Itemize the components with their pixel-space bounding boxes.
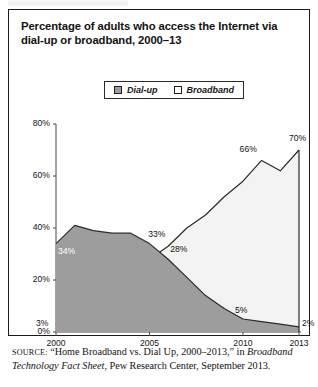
y-axis-tick-label: 20% bbox=[14, 274, 50, 284]
data-label-dial-up-2: 2% bbox=[302, 318, 314, 328]
y-axis-tick-label: 60% bbox=[14, 170, 50, 180]
data-label-broadband-66: 66% bbox=[240, 144, 257, 154]
data-label-dial-up-34: 34% bbox=[58, 246, 75, 256]
legend-item-dial-up: Dial-up bbox=[114, 85, 158, 95]
data-label-dial-up-5: 5% bbox=[235, 305, 247, 315]
legend-swatch-broadband-icon bbox=[174, 86, 182, 94]
legend-swatch-dial-up-icon bbox=[114, 86, 122, 94]
source-prefix: SOURCE: bbox=[12, 348, 48, 357]
legend-label-broadband: Broadband bbox=[187, 85, 235, 95]
chart-legend: Dial-up Broadband bbox=[104, 81, 244, 99]
y-axis-tick-label: 80% bbox=[14, 118, 50, 128]
data-label-broadband-3: 3% bbox=[36, 318, 48, 328]
source-text-part2: , Pew Research Center, September 2013. bbox=[104, 360, 270, 371]
legend-item-broadband: Broadband bbox=[174, 85, 235, 95]
chart-plot-area: 0%20%40%60%80%2000200520102013 3%33%66%7… bbox=[9, 114, 311, 346]
figure-frame: Percentage of adults who access the Inte… bbox=[8, 9, 310, 336]
figure-title: Percentage of adults who access the Inte… bbox=[21, 19, 293, 47]
y-axis-tick-label: 40% bbox=[14, 222, 50, 232]
data-label-broadband-70: 70% bbox=[289, 133, 306, 143]
clipped-header-strip bbox=[8, 0, 128, 7]
figure-page: Percentage of adults who access the Inte… bbox=[0, 0, 318, 387]
source-text-part1: “Home Broadband vs. Dial Up, 2000–2013,”… bbox=[48, 346, 247, 357]
source-note: SOURCE: “Home Broadband vs. Dial Up, 200… bbox=[12, 345, 308, 372]
data-label-broadband-33: 33% bbox=[148, 229, 165, 239]
legend-label-dial-up: Dial-up bbox=[127, 85, 158, 95]
data-label-dial-up-28: 28% bbox=[170, 244, 187, 254]
